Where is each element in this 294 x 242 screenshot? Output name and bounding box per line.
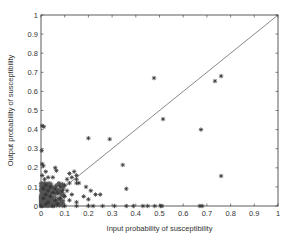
data-point-marker xyxy=(74,204,78,208)
data-point-marker xyxy=(74,200,78,204)
x-tick-label: 0.4 xyxy=(131,209,141,218)
y-tick-label: 0.7 xyxy=(28,68,38,77)
data-point-marker xyxy=(44,183,48,187)
data-point-marker xyxy=(199,127,203,131)
y-tick-label: 0.6 xyxy=(28,87,38,96)
y-tick-label: 0.8 xyxy=(28,49,38,58)
data-point-marker xyxy=(46,189,50,193)
y-tick-label: 0.5 xyxy=(28,106,38,115)
data-point-marker xyxy=(44,169,48,173)
x-tick-label: 0.8 xyxy=(225,209,235,218)
data-point-marker xyxy=(108,137,112,141)
data-point-marker xyxy=(67,198,71,202)
data-point-marker xyxy=(53,198,57,202)
data-point-marker xyxy=(112,204,116,208)
data-point-marker xyxy=(84,185,88,189)
y-tick-label: 1 xyxy=(34,11,38,20)
data-point-marker xyxy=(65,177,69,181)
data-point-marker xyxy=(54,168,58,172)
data-point-marker xyxy=(219,74,223,78)
y-tick-label: 0.2 xyxy=(28,163,38,172)
data-point-marker xyxy=(58,196,62,200)
y-tick-label: 0.3 xyxy=(28,144,38,153)
x-tick-label: 0.2 xyxy=(83,209,93,218)
data-point-marker xyxy=(145,204,149,208)
data-point-marker xyxy=(53,187,57,191)
data-point-marker xyxy=(42,177,46,181)
data-point-marker xyxy=(153,204,157,208)
data-point-marker xyxy=(93,192,97,196)
data-point-marker xyxy=(67,171,71,175)
data-point-marker xyxy=(70,192,74,196)
data-point-marker xyxy=(161,117,165,121)
data-point-marker xyxy=(160,204,164,208)
data-point-marker xyxy=(70,175,74,179)
x-tick-label: 0.7 xyxy=(202,209,212,218)
data-point-marker xyxy=(219,174,223,178)
scatter-chart: 00.10.20.30.40.50.60.70.80.91 00.10.20.3… xyxy=(0,0,294,242)
data-point-marker xyxy=(91,204,95,208)
data-point-marker xyxy=(51,175,55,179)
x-tick-label: 1 xyxy=(276,209,280,218)
data-point-marker xyxy=(72,169,76,173)
data-point-marker xyxy=(51,204,55,208)
data-point-marker xyxy=(81,194,85,198)
data-point-marker xyxy=(200,204,204,208)
x-tick-label: 0.5 xyxy=(154,209,164,218)
data-point-marker xyxy=(89,189,93,193)
data-point-marker xyxy=(131,204,135,208)
data-point-marker xyxy=(63,194,67,198)
x-axis-label: Input probability of susceptibility xyxy=(107,224,213,233)
data-point-marker xyxy=(48,185,52,189)
data-point-marker xyxy=(40,148,44,152)
data-point-marker xyxy=(141,204,145,208)
data-point-marker xyxy=(40,173,44,177)
data-point-marker xyxy=(44,192,48,196)
y-tick-label: 0 xyxy=(34,202,38,211)
data-point-marker xyxy=(213,79,217,83)
y-axis-label: Output probability of susceptibility xyxy=(6,54,15,166)
x-tick-label: 0 xyxy=(39,209,43,218)
data-point-marker xyxy=(77,181,81,185)
y-tick-label: 0.4 xyxy=(28,125,38,134)
y-tick-label: 0.9 xyxy=(28,30,38,39)
data-point-marker xyxy=(86,136,90,140)
x-tick-label: 0.9 xyxy=(249,209,259,218)
y-tick-label: 0.1 xyxy=(28,183,38,192)
data-point-marker xyxy=(152,76,156,80)
data-point-marker xyxy=(98,192,102,196)
data-point-marker xyxy=(58,185,62,189)
x-tick-label: 0.6 xyxy=(178,209,188,218)
data-point-marker xyxy=(100,204,104,208)
data-point-marker xyxy=(65,189,69,193)
x-tick-label: 0.1 xyxy=(59,209,69,218)
data-point-marker xyxy=(55,202,59,206)
data-point-marker xyxy=(51,190,55,194)
x-tick-label: 0.3 xyxy=(107,209,117,218)
data-point-marker xyxy=(121,163,125,167)
data-point-marker xyxy=(86,197,90,201)
